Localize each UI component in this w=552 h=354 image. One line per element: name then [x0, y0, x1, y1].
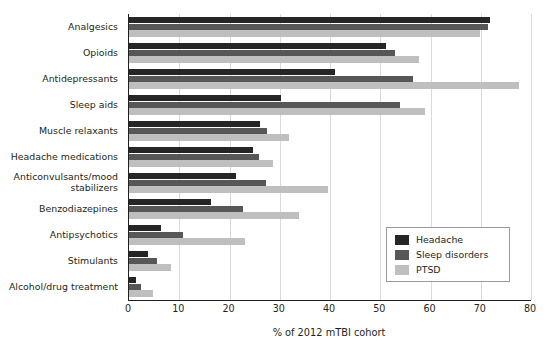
bar-group: [129, 173, 531, 193]
legend-item: Sleep disorders: [395, 249, 501, 260]
x-tick-label: 40: [323, 303, 335, 314]
bar: [129, 128, 267, 134]
bar: [129, 258, 157, 264]
gridline: [531, 14, 532, 300]
bar: [129, 232, 183, 238]
x-tick-label: 20: [222, 303, 234, 314]
bar: [129, 24, 488, 30]
y-axis-label: Antipsychotics: [50, 230, 118, 241]
bar: [129, 50, 395, 56]
bar: [129, 154, 259, 160]
bar: [129, 56, 419, 62]
bar: [129, 277, 136, 283]
bar: [129, 147, 253, 153]
bar-chart: AnalgesicsOpioidsAntidepressantsSleep ai…: [0, 0, 552, 354]
bar: [129, 238, 245, 244]
bar: [129, 82, 519, 88]
bar: [129, 121, 260, 127]
bar: [129, 108, 425, 114]
y-axis-label: Anticonvulsants/mood stabilizers: [0, 172, 118, 193]
bar: [129, 206, 243, 212]
bar: [129, 264, 171, 270]
y-axis-label: Alcohol/drug treatment: [9, 282, 118, 293]
legend-label: PTSD: [416, 264, 441, 275]
y-axis-label: Benzodiazepines: [39, 204, 118, 215]
legend-swatch-sleep-disorders: [395, 250, 409, 260]
bar: [129, 290, 153, 296]
bar: [129, 225, 161, 231]
y-axis-label: Analgesics: [68, 22, 118, 33]
legend-swatch-ptsd: [395, 265, 409, 275]
bar: [129, 173, 236, 179]
y-axis-label: Antidepressants: [42, 74, 118, 85]
x-tick-label: 0: [125, 303, 131, 314]
x-tick-label: 60: [423, 303, 435, 314]
chart-legend: Headache Sleep disorders PTSD: [386, 227, 510, 282]
bar-group: [129, 17, 531, 37]
bar: [129, 180, 266, 186]
y-axis-label: Sleep aids: [70, 100, 118, 111]
bar-group: [129, 69, 531, 89]
bar-group: [129, 95, 531, 115]
x-tick-label: 80: [524, 303, 536, 314]
x-tick-label: 50: [373, 303, 385, 314]
legend-swatch-headache: [395, 235, 409, 245]
bar-group: [129, 121, 531, 141]
bar: [129, 199, 211, 205]
bar: [129, 134, 289, 140]
legend-item: Headache: [395, 234, 501, 245]
y-axis-label: Headache medications: [11, 152, 118, 163]
bar: [129, 160, 273, 166]
y-axis-label: Opioids: [83, 48, 118, 59]
bar: [129, 95, 281, 101]
bar: [129, 43, 386, 49]
bar: [129, 76, 413, 82]
x-tick-label: 30: [273, 303, 285, 314]
bar: [129, 284, 141, 290]
y-axis-label: Muscle relaxants: [39, 126, 118, 137]
x-tick-label: 70: [474, 303, 486, 314]
y-axis-category-labels: AnalgesicsOpioidsAntidepressantsSleep ai…: [0, 14, 124, 300]
bar: [129, 17, 490, 23]
bar-group: [129, 199, 531, 219]
bar: [129, 102, 400, 108]
legend-label: Sleep disorders: [416, 249, 488, 260]
bar: [129, 69, 335, 75]
bar-group: [129, 147, 531, 167]
bar: [129, 212, 299, 218]
bar: [129, 186, 328, 192]
bar: [129, 251, 148, 257]
legend-item: PTSD: [395, 264, 501, 275]
bar: [129, 30, 480, 36]
x-tick-label: 10: [172, 303, 184, 314]
x-axis-title: % of 2012 mTBI cohort: [128, 327, 530, 338]
legend-label: Headache: [416, 234, 463, 245]
bar-group: [129, 43, 531, 63]
y-axis-label: Stimulants: [68, 256, 118, 267]
